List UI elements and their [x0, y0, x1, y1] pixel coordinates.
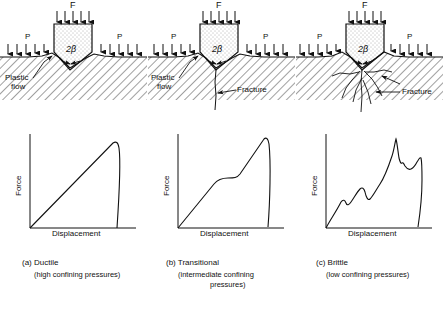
diagram-ductile: F P P 2β Plastic flow: [0, 0, 147, 126]
ductile-force-displacement-curve: [30, 142, 120, 228]
panel-brittle: F P P 2β Fracture Force Displacement (c)…: [296, 0, 443, 310]
diagram-ductile-svg: [0, 0, 147, 126]
x-axis-label: Displacement: [52, 229, 100, 238]
caption-main: (a) Ductile: [0, 258, 147, 267]
confining-pressure-arrows-left-ductile: [8, 44, 44, 54]
caption-sub-1: (intermediate confining: [148, 270, 295, 279]
y-axis-label: Force: [310, 176, 319, 196]
caption-sub-1: (low confining pressures): [296, 270, 443, 279]
wedge-angle-label: 2β: [66, 45, 76, 54]
x-axis-label: Displacement: [200, 229, 248, 238]
pressure-label-left: P: [317, 32, 322, 41]
y-axis-label: Force: [14, 176, 23, 196]
plastic-flow-label-line2: flow: [11, 82, 25, 91]
diagram-brittle-svg: [296, 0, 443, 126]
x-axis-label: Displacement: [348, 229, 396, 238]
y-axis-label: Force: [162, 176, 171, 196]
caption-ductile: (a) Ductile (high confining pressures): [0, 258, 147, 279]
force-label: F: [70, 1, 76, 10]
caption-brittle: (c) Brittle (low confining pressures): [296, 258, 443, 279]
fracture-label: Fracture: [402, 87, 432, 96]
plastic-flow-label-line2: flow: [157, 82, 171, 91]
pressure-label-left: P: [171, 32, 176, 41]
caption-main: (b) Transitional: [148, 258, 295, 267]
force-arrows-ductile: [57, 11, 89, 22]
caption-main: (c) Brittle: [296, 258, 443, 267]
panel-transitional: F P P 2β Plastic flow Fracture Force Dis…: [148, 0, 295, 310]
chart-ductile: Force Displacement: [0, 128, 147, 253]
pressure-label-right: P: [407, 32, 412, 41]
force-arrows-transitional: [203, 11, 235, 22]
confining-pressure-arrows-left-brittle: [300, 44, 336, 54]
figure-indentation-modes: F P P 2β Plastic flow Force Displacement…: [0, 0, 443, 310]
force-arrows-brittle: [349, 11, 381, 22]
wedge-angle-label: 2β: [358, 45, 368, 54]
force-label: F: [362, 1, 368, 10]
pressure-label-right: P: [117, 32, 122, 41]
confining-pressure-arrows-right-ductile: [101, 44, 137, 54]
pressure-label-left: P: [25, 32, 30, 41]
plastic-flow-label-line1: Plastic: [5, 73, 29, 82]
caption-sub-1: (high confining pressures): [0, 270, 147, 279]
confining-pressure-arrows-right-transitional: [247, 44, 283, 54]
fracture-crack-transitional: [215, 70, 216, 110]
chart-brittle: Force Displacement: [296, 128, 443, 253]
diagram-transitional: F P P 2β Plastic flow Fracture: [148, 0, 295, 126]
fracture-label: Fracture: [237, 85, 267, 94]
wedge-angle-label: 2β: [212, 45, 222, 54]
panel-ductile: F P P 2β Plastic flow Force Displacement…: [0, 0, 147, 310]
diagram-transitional-svg: [148, 0, 295, 126]
confining-pressure-arrows-right-brittle: [391, 44, 427, 54]
brittle-force-displacement-curve: [326, 139, 422, 228]
diagram-brittle: F P P 2β Fracture: [296, 0, 443, 126]
caption-transitional: (b) Transitional (intermediate confining…: [148, 258, 295, 289]
force-label: F: [216, 1, 222, 10]
confining-pressure-arrows-left-transitional: [154, 44, 190, 54]
pressure-label-right: P: [263, 32, 268, 41]
chart-transitional: Force Displacement: [148, 128, 295, 253]
caption-sub-2: pressures): [148, 280, 295, 289]
plastic-flow-label-line1: Plastic: [151, 73, 175, 82]
transitional-force-displacement-curve: [178, 138, 270, 228]
